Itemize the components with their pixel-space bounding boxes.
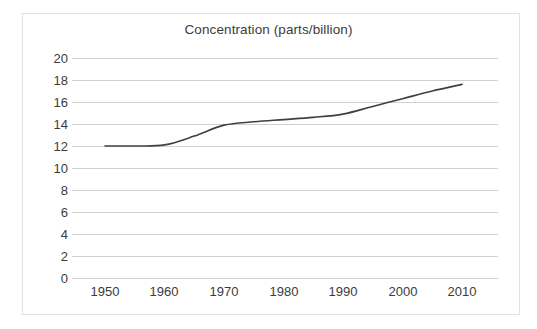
- chart-canvas: Concentration (parts/billion) 20 18 16 1…: [0, 0, 537, 329]
- series-line-concentration: [105, 84, 462, 146]
- series-line-layer: [0, 0, 537, 329]
